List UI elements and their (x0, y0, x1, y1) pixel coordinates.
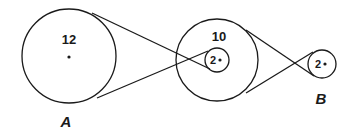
pulley-b-center-dot (323, 62, 326, 65)
pulley-b-circle (308, 50, 336, 78)
belt-line (92, 13, 210, 69)
compound-small-teeth-label: 2 (210, 54, 216, 66)
pulley-b-teeth-label: 2 (315, 58, 321, 70)
pulley-belt-diagram: 12 10 2 2 A B (0, 0, 356, 130)
shaft-a-label: A (60, 113, 72, 130)
shaft-b-label: B (316, 90, 327, 107)
belt-line (97, 51, 208, 98)
pulley-a-center-dot (67, 55, 70, 58)
pulley-a-teeth-label: 12 (62, 32, 76, 47)
belt-line (246, 30, 314, 76)
compound-center-dot (218, 58, 221, 61)
compound-large-teeth-label: 10 (212, 29, 226, 44)
